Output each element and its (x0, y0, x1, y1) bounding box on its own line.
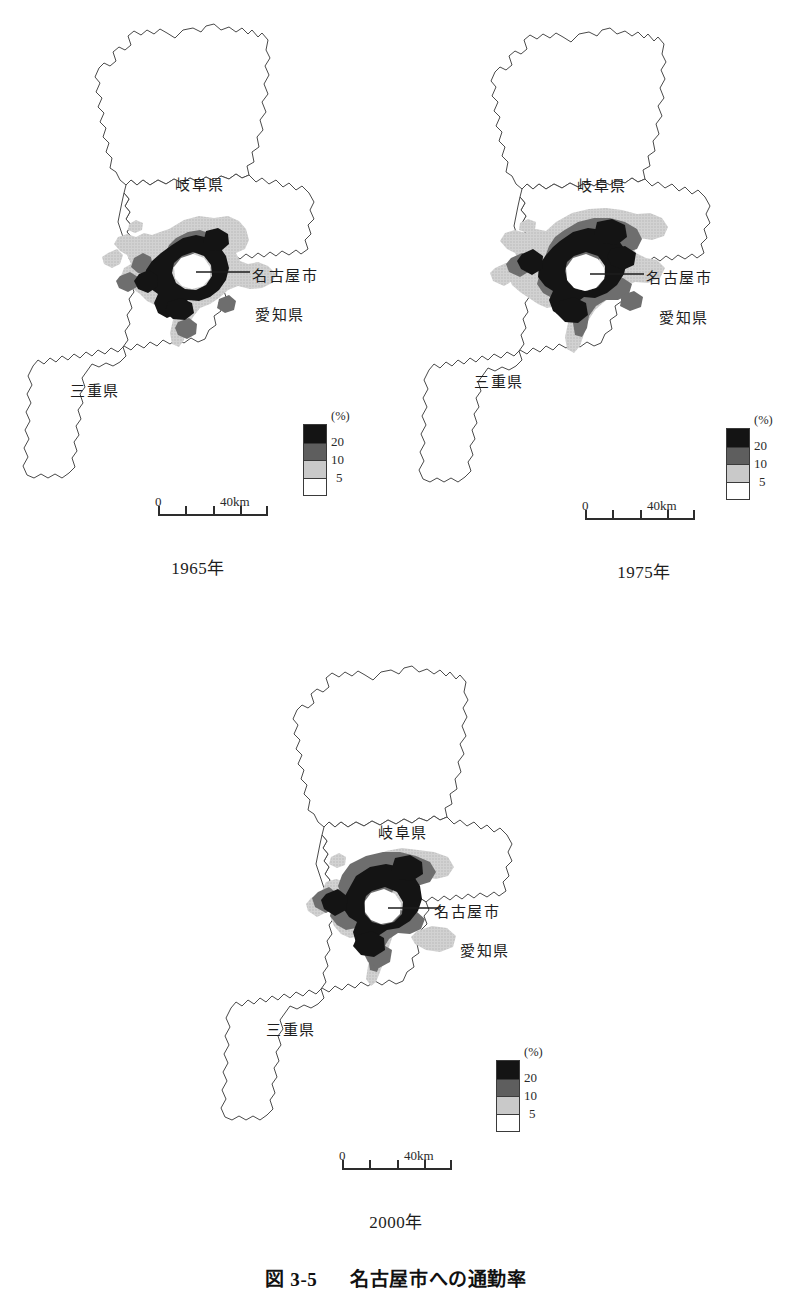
label-nagoya: 名古屋市 (434, 900, 500, 921)
legend-swatch-under5 (727, 482, 749, 500)
legend-1965: (%) 20 10 5 (303, 410, 399, 506)
scalebar-end-label: 40km (647, 498, 677, 514)
legend-tick-5: 5 (529, 1107, 536, 1120)
legend-swatch-20plus (727, 429, 749, 447)
legend-swatch-column (726, 428, 750, 500)
scalebar-tick (158, 506, 160, 516)
year-label-1965: 1965年 (0, 554, 396, 579)
label-nagoya: 名古屋市 (252, 264, 318, 285)
legend-swatch-column (303, 424, 327, 496)
scalebar-tick (667, 510, 669, 520)
gifu-outline (491, 28, 666, 189)
label-aichi: 愛知県 (255, 303, 305, 324)
legend-unit-label: (%) (754, 414, 773, 427)
legend-swatch-5-10 (497, 1096, 519, 1114)
scalebar-tick (266, 506, 268, 516)
gifu-outline (95, 24, 270, 185)
legend-swatch-10-20 (727, 447, 749, 465)
scalebar-tick (693, 510, 695, 520)
figure-root: 岐阜県 愛知県 三重県 名古屋市 (%) 20 10 5 (0, 0, 792, 1301)
scalebar-2000: 0 40km (342, 1148, 462, 1178)
class-5-10-west (102, 249, 123, 268)
scalebar-tick (450, 1160, 452, 1170)
legend-tick-10: 10 (524, 1089, 537, 1102)
label-aichi: 愛知県 (460, 939, 510, 960)
scalebar-tick (213, 506, 215, 516)
scalebar-tick (369, 1160, 371, 1170)
label-gifu: 岐阜県 (577, 174, 627, 195)
legend-swatch-5-10 (304, 460, 326, 478)
scalebar-end-label: 40km (220, 494, 250, 510)
legend-2000: (%) 20 10 5 (496, 1046, 592, 1142)
legend-1975: (%) 20 10 5 (726, 414, 792, 510)
legend-unit-label: (%) (331, 410, 350, 423)
year-label-1975: 1975年 (446, 558, 792, 583)
figure-caption-number: 図 3-5 (265, 1269, 317, 1290)
scalebar-tick (342, 1160, 344, 1170)
scalebar-tick (640, 510, 642, 520)
scalebar-tick (397, 1160, 399, 1170)
legend-swatch-column (496, 1060, 520, 1132)
map-panel-1975: 岐阜県 愛知県 三重県 名古屋市 (%) 20 10 5 0 (396, 10, 792, 610)
figure-caption-title: 名古屋市への通勤率 (350, 1269, 526, 1290)
legend-tick-10: 10 (754, 457, 767, 470)
legend-tick-20: 20 (524, 1071, 537, 1084)
label-mie: 三重県 (474, 370, 524, 391)
legend-swatch-under5 (497, 1114, 519, 1132)
scalebar-tick (240, 506, 242, 516)
label-nagoya: 名古屋市 (646, 266, 712, 287)
legend-tick-20: 20 (331, 435, 344, 448)
label-mie: 三重県 (266, 1018, 316, 1039)
scalebar-1965: 0 40km (158, 494, 278, 524)
legend-swatch-10-20 (497, 1079, 519, 1097)
map-panel-1965: 岐阜県 愛知県 三重県 名古屋市 (%) 20 10 5 (0, 6, 396, 606)
label-gifu: 岐阜県 (175, 173, 225, 194)
scalebar-1975: 0 40km (585, 498, 705, 528)
legend-tick-10: 10 (331, 453, 344, 466)
gifu-outline (293, 666, 468, 827)
scalebar-tick (612, 510, 614, 520)
legend-swatch-5-10 (727, 464, 749, 482)
legend-tick-20: 20 (754, 439, 767, 452)
scalebar-tick (424, 1160, 426, 1170)
scalebar-end-label: 40km (404, 1148, 434, 1164)
legend-tick-5: 5 (336, 471, 343, 484)
label-mie: 三重県 (70, 379, 120, 400)
scalebar-tick (185, 506, 187, 516)
legend-swatch-under5 (304, 478, 326, 496)
year-label-2000: 2000年 (198, 1208, 594, 1233)
legend-tick-5: 5 (759, 475, 766, 488)
legend-unit-label: (%) (524, 1046, 543, 1059)
scalebar-tick (585, 510, 587, 520)
label-gifu: 岐阜県 (378, 821, 428, 842)
legend-swatch-20plus (304, 425, 326, 443)
map-panel-2000: 岐阜県 愛知県 三重県 名古屋市 (%) 20 10 5 0 (198, 648, 594, 1248)
label-aichi: 愛知県 (659, 306, 709, 327)
figure-caption: 図 3-5 名古屋市への通勤率 (0, 1264, 792, 1291)
legend-swatch-20plus (497, 1061, 519, 1079)
legend-swatch-10-20 (304, 443, 326, 461)
